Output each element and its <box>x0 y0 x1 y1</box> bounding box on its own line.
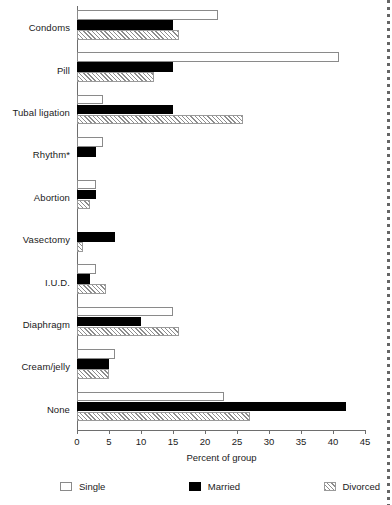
x-axis-tick <box>205 430 206 434</box>
bar-group: I.U.D. <box>77 260 365 302</box>
bar-single <box>77 137 103 147</box>
x-axis-tick-label: 20 <box>200 436 211 447</box>
x-axis-tick-label: 45 <box>360 436 371 447</box>
bar-married <box>77 317 141 327</box>
legend-item-married: Married <box>189 481 240 492</box>
bar-group: None <box>77 388 365 430</box>
figure-container: CondomsPillTubal ligationRhythm*Abortion… <box>0 0 392 505</box>
bar-married <box>77 20 173 30</box>
legend-label: Single <box>79 481 105 492</box>
x-axis-tick-label: 5 <box>106 436 111 447</box>
bar-single <box>77 392 224 402</box>
bar-married <box>77 402 346 412</box>
bar-group: Rhythm* <box>77 133 365 175</box>
chart-legend: SingleMarriedDivorced <box>60 481 380 492</box>
x-axis-tick <box>173 430 174 434</box>
legend-label: Married <box>208 481 240 492</box>
x-axis-tick-label: 10 <box>136 436 147 447</box>
bar-married <box>77 232 115 242</box>
x-axis-tick <box>333 430 334 434</box>
category-label: Diaphragm <box>23 318 70 329</box>
bar-divorced <box>77 327 179 337</box>
category-label: Rhythm* <box>33 149 70 160</box>
category-label: None <box>47 403 70 414</box>
bar-divorced <box>77 412 250 422</box>
category-label: Vasectomy <box>23 234 70 245</box>
x-axis-tick <box>365 430 366 434</box>
plot-area: CondomsPillTubal ligationRhythm*Abortion… <box>77 6 365 430</box>
category-label: I.U.D. <box>45 276 70 287</box>
x-axis-tick-label: 40 <box>328 436 339 447</box>
swatch-divorced-icon <box>324 482 336 491</box>
bar-single <box>77 95 103 105</box>
bar-single <box>77 180 96 190</box>
bar-single <box>77 264 96 274</box>
x-axis-tick <box>269 430 270 434</box>
category-label: Tubal ligation <box>12 106 70 117</box>
category-label: Cream/jelly <box>21 361 70 372</box>
x-axis-tick <box>301 430 302 434</box>
bar-divorced <box>77 242 83 252</box>
swatch-single-icon <box>60 482 72 491</box>
bar-single <box>77 349 115 359</box>
bar-divorced <box>77 72 154 82</box>
x-axis-tick <box>237 430 238 434</box>
bar-married <box>77 105 173 115</box>
bar-divorced <box>77 115 243 125</box>
bar-divorced <box>77 284 106 294</box>
bar-divorced <box>77 369 109 379</box>
x-axis-tick-label: 15 <box>168 436 179 447</box>
x-axis-tick-label: 35 <box>296 436 307 447</box>
x-axis-tick <box>141 430 142 434</box>
bar-single <box>77 10 218 20</box>
bar-group: Tubal ligation <box>77 91 365 133</box>
bar-divorced <box>77 30 179 40</box>
legend-item-divorced: Divorced <box>324 481 381 492</box>
bar-single <box>77 307 173 317</box>
x-axis-tick <box>77 430 78 434</box>
category-label: Abortion <box>34 191 70 202</box>
bar-married <box>77 62 173 72</box>
category-label: Condoms <box>29 22 70 33</box>
x-axis-tick-label: 25 <box>232 436 243 447</box>
x-axis-tick-label: 0 <box>74 436 79 447</box>
x-axis-tick <box>109 430 110 434</box>
bar-group: Vasectomy <box>77 218 365 260</box>
bar-group: Diaphragm <box>77 303 365 345</box>
bar-divorced <box>77 200 90 210</box>
x-axis-title: Percent of group <box>77 452 366 463</box>
bar-married <box>77 274 90 284</box>
bar-group: Condoms <box>77 6 365 48</box>
bar-married <box>77 359 109 369</box>
bar-married <box>77 147 96 157</box>
legend-item-single: Single <box>60 481 105 492</box>
bar-married <box>77 190 96 200</box>
bar-group: Pill <box>77 48 365 90</box>
x-axis-line <box>77 430 366 431</box>
bar-group: Cream/jelly <box>77 345 365 387</box>
legend-label: Divorced <box>343 481 381 492</box>
bar-group: Abortion <box>77 176 365 218</box>
x-axis-tick-label: 30 <box>264 436 275 447</box>
category-label: Pill <box>57 64 70 75</box>
scan-edge-artifact <box>387 0 390 505</box>
bar-single <box>77 52 339 62</box>
swatch-married-icon <box>189 482 201 491</box>
